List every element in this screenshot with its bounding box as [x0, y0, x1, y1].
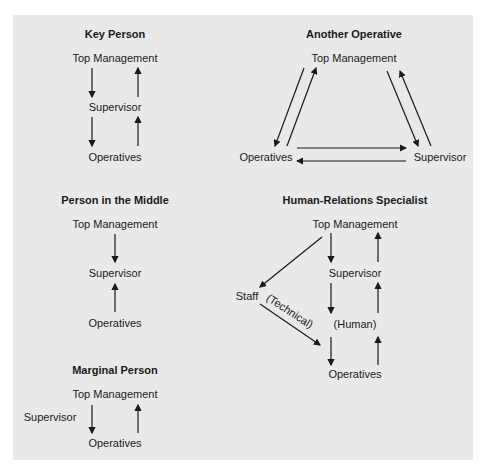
human-relations-top: Top Management [313, 218, 398, 230]
marginal-person-bottom: Operatives [88, 437, 141, 449]
human-relations-human: (Human) [334, 318, 377, 330]
person-middle-top: Top Management [73, 218, 158, 230]
key-person-bottom: Operatives [88, 151, 141, 163]
person-middle-middle: Supervisor [89, 267, 142, 279]
marginal-person-title: Marginal Person [72, 364, 158, 376]
arrow-up [287, 68, 316, 146]
another-operative-top: Top Management [312, 52, 397, 64]
marginal-person-top: Top Management [73, 388, 158, 400]
human-relations-bottom: Operatives [328, 368, 381, 380]
person-middle-bottom: Operatives [88, 317, 141, 329]
key-person-middle: Supervisor [89, 101, 142, 113]
human-relations-supervisor: Supervisor [329, 267, 382, 279]
arrow-down [387, 71, 418, 146]
another-operative-right: Supervisor [414, 151, 467, 163]
arrow-staff [260, 237, 322, 287]
human-relations-title: Human-Relations Specialist [283, 194, 428, 206]
marginal-person-side: Supervisor [24, 411, 77, 423]
key-person-title: Key Person [85, 28, 146, 40]
arrow-up [400, 71, 431, 146]
another-operative-title: Another Operative [306, 28, 402, 40]
key-person-top: Top Management [73, 52, 158, 64]
human-relations-staff: Staff [236, 290, 258, 302]
person-middle-title: Person in the Middle [61, 194, 169, 206]
another-operative-left: Operatives [239, 151, 292, 163]
arrow-down [275, 68, 304, 146]
